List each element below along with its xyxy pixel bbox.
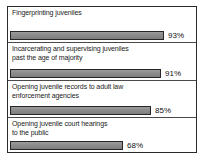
chart-row: Incarcerating and supervising juveniles …: [8, 43, 196, 81]
bar-value-label: 85%: [155, 105, 171, 116]
bar-category-label: Incarcerating and supervising juveniles …: [12, 45, 192, 62]
chart-row: Opening juvenile court hearings to the p…: [8, 118, 196, 152]
bar-track: 85%: [10, 106, 194, 115]
chart-row: Fingerprinting juveniles 93%: [8, 7, 196, 43]
bar-track: 91%: [10, 69, 194, 78]
bar-value-label: 93%: [168, 30, 184, 41]
bar-track: 93%: [10, 31, 194, 40]
bar-fill: [10, 141, 123, 150]
bar-category-label: Fingerprinting juveniles: [12, 9, 192, 18]
chart-frame: Fingerprinting juveniles 93% Incarcerati…: [7, 6, 197, 153]
bar-track: 68%: [10, 141, 194, 150]
bar-fill: [10, 69, 161, 78]
bar-value-label: 91%: [165, 68, 181, 79]
bar-fill: [10, 31, 164, 40]
bar-category-label: Opening juvenile court hearings to the p…: [12, 120, 192, 137]
bar-category-label: Opening juvenile records to adult law en…: [12, 83, 192, 100]
bar-fill: [10, 106, 151, 115]
chart-row: Opening juvenile records to adult law en…: [8, 81, 196, 118]
bar-chart-figure: Fingerprinting juveniles 93% Incarcerati…: [0, 0, 209, 167]
bar-value-label: 68%: [127, 140, 143, 151]
